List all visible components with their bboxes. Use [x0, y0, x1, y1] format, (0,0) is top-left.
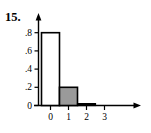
y-axis-arrowhead: [36, 13, 42, 21]
x-tick-label-2: 2: [84, 112, 89, 122]
bar-x1: [60, 87, 78, 105]
y-tick-label-0.4: .4: [25, 64, 32, 74]
x-tick-label-0: 0: [48, 112, 53, 122]
x-axis-arrowhead: [134, 103, 142, 109]
y-tick-label-0.2: .2: [25, 82, 32, 92]
x-tick-label-3: 3: [102, 112, 107, 122]
y-tick-label-0.8: .8: [25, 28, 32, 38]
y-tick-label-0: 0: [27, 101, 32, 111]
problem-number-label: 15.: [5, 11, 21, 24]
x-tick-label-1: 1: [66, 112, 71, 122]
y-tick-label-0.6: .6: [25, 46, 32, 56]
bar-x0: [42, 33, 60, 106]
histogram-figure: 15. 0 .2 .4 .6 .8 0 1 2 3: [0, 0, 151, 133]
bar-x2: [78, 104, 96, 106]
histogram-svg: 0 .2 .4 .6 .8 0 1 2 3: [0, 0, 151, 133]
